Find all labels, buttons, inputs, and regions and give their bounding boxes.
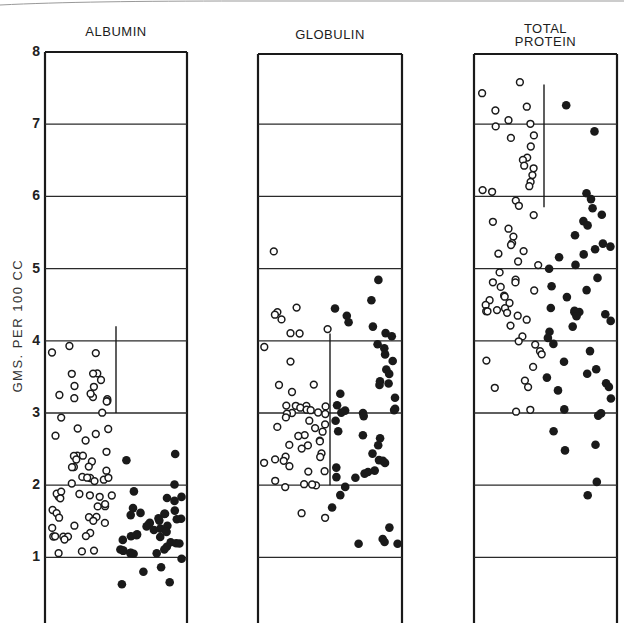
data-point-open [49,349,56,356]
data-point-open [56,514,63,521]
data-point-filled [332,473,341,482]
data-point-open [102,520,109,527]
data-point-open [530,212,537,219]
data-point-open [91,478,98,485]
data-point-open [312,425,319,432]
data-point-open [527,143,534,150]
data-point-filled [543,373,552,382]
data-point-filled [152,549,161,558]
data-point-open [283,414,290,421]
data-point-open [286,442,293,449]
data-point-filled [560,405,569,414]
data-point-filled [367,296,376,305]
data-point-filled [605,383,614,392]
data-point-filled [331,417,340,426]
data-point-filled [561,446,570,455]
data-point-open [319,428,326,435]
data-point-filled [593,478,602,487]
data-point-filled [173,515,182,524]
data-point-open [529,172,536,179]
data-point-filled [582,286,591,295]
data-point-open [278,316,285,323]
data-point-open [522,377,529,384]
data-point-filled [170,497,179,506]
data-point-open [505,225,512,232]
data-point-open [523,316,530,323]
data-point-filled [381,459,390,468]
data-point-open [516,202,523,209]
data-point-open [80,452,87,459]
data-point-open [530,165,537,172]
data-point-open [523,103,530,110]
data-point-open [87,390,94,397]
data-point-filled [562,101,571,110]
data-point-open [102,501,109,508]
data-point-open [490,279,497,286]
data-point-filled [122,456,131,465]
data-point-open [293,304,300,311]
data-point-open [57,495,64,502]
data-point-filled [163,494,172,503]
data-point-open [287,330,294,337]
data-point-filled [391,405,400,414]
data-point-open [535,262,542,269]
data-point-filled [594,411,603,420]
data-point-open [52,533,59,540]
data-point-filled [156,533,165,542]
data-point-filled [384,379,393,388]
data-point-open [66,343,73,350]
data-point-filled [142,522,151,531]
data-point-open [90,370,97,377]
data-point-open [69,464,76,471]
data-point-open [301,481,308,488]
data-point-open [76,491,83,498]
data-point-open [73,456,80,463]
data-point-open [283,402,290,409]
data-point-filled [607,394,616,403]
data-point-open [92,350,99,357]
data-point-filled [155,516,164,525]
data-point-open [56,392,63,399]
data-point-open [538,351,545,358]
data-point-filled [165,578,174,587]
data-point-filled [380,538,389,547]
data-point-filled [337,408,346,417]
data-point-filled [587,195,596,204]
data-point-filled [160,545,169,554]
data-point-open [305,468,312,475]
data-point-open [531,132,538,139]
data-point-filled [157,563,166,572]
data-point-open [510,233,517,240]
data-point-filled [129,549,138,558]
data-point-open [272,311,279,318]
data-point-filled [560,357,569,366]
data-point-open [322,403,329,410]
data-point-filled [572,312,581,321]
data-point-open [272,456,279,463]
data-point-open [83,533,90,540]
data-point-open [491,384,498,391]
data-point-filled [385,370,394,379]
data-point-open [322,514,329,521]
data-point-open [520,248,527,255]
data-point-open [276,382,283,389]
data-point-filled [171,450,180,459]
data-point-filled [592,365,601,374]
data-point-filled [563,293,572,302]
data-point-open [310,381,317,388]
data-point-open [527,120,534,127]
data-point-filled [360,469,369,478]
data-point-open [286,463,293,470]
panel-albumin [45,52,187,623]
data-point-filled [359,431,368,440]
data-point-filled [606,242,615,251]
data-point-filled [583,370,592,379]
panel-globulin [258,54,402,623]
data-point-filled [549,340,558,349]
data-point-filled [547,304,556,313]
data-point-open [501,293,508,300]
data-point-filled [590,127,599,136]
data-point-open [515,338,522,345]
data-point-filled [374,441,383,450]
data-point-open [98,377,105,384]
